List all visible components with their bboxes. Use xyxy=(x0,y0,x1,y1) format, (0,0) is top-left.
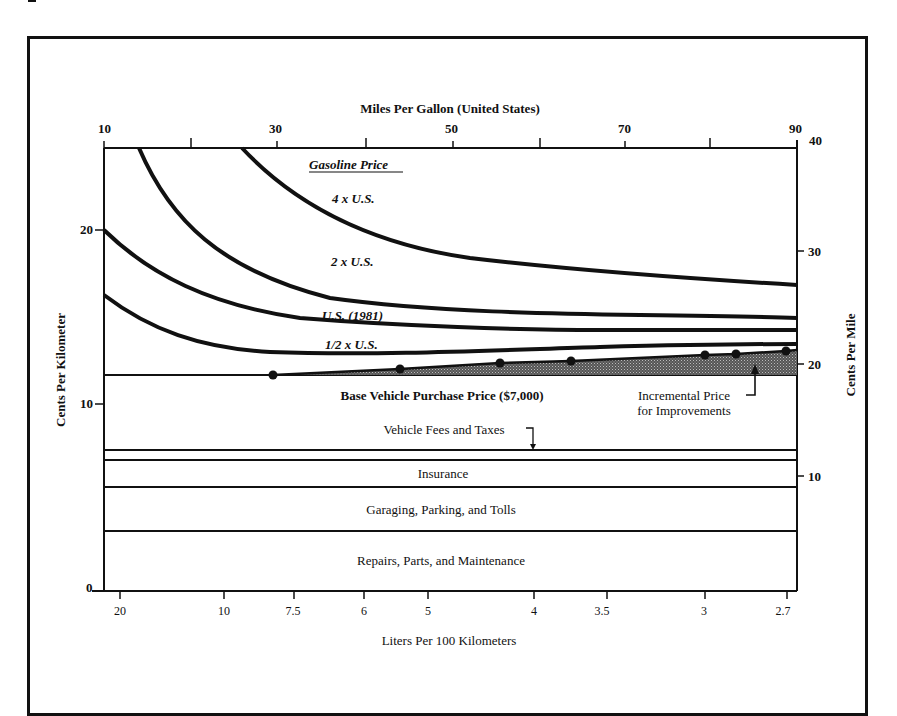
bottom-axis-title: Liters Per 100 Kilometers xyxy=(382,633,517,648)
curve-label-4x: 4 x U.S. xyxy=(331,191,375,206)
curve-half-us xyxy=(104,295,797,353)
data-point xyxy=(567,357,576,366)
bottom-axis-ticks xyxy=(120,591,787,599)
gasoline-price-curves xyxy=(104,148,797,353)
top-tick-label: 90 xyxy=(789,121,802,136)
left-axis-title: Cents Per Kilometer xyxy=(53,313,68,427)
data-point xyxy=(396,365,405,374)
bottom-tick-label: 2.7 xyxy=(776,604,791,618)
right-tick-label: 10 xyxy=(808,469,821,484)
left-tick-label: 10 xyxy=(80,396,93,411)
right-axis-ticks: 40 30 20 10 Cents Per Mile xyxy=(797,133,858,484)
right-axis-title: Cents Per Mile xyxy=(843,313,858,396)
label-fees-taxes: Vehicle Fees and Taxes xyxy=(383,422,504,437)
top-tick-label: 50 xyxy=(445,121,458,136)
top-axis-ticks xyxy=(104,138,797,148)
bottom-tick-label: 5 xyxy=(425,604,431,618)
top-tick-label: 30 xyxy=(269,121,282,136)
top-axis-title: Miles Per Gallon (United States) xyxy=(360,101,540,116)
curve-2x-us xyxy=(139,148,797,318)
label-insurance: Insurance xyxy=(418,466,469,481)
top-tick-label: 10 xyxy=(98,121,111,136)
right-tick-label: 20 xyxy=(808,357,821,372)
data-point xyxy=(496,359,505,368)
bottom-axis-labels: 20 10 7.5 6 5 4 3.5 3 2.7 Liters Per 100… xyxy=(114,604,791,648)
annotation-incremental-line1: Incremental Price xyxy=(638,388,730,403)
data-point xyxy=(732,350,741,359)
top-axis-labels: 10 30 50 70 90 Miles Per Gallon (United … xyxy=(98,101,802,136)
bottom-tick-label: 3 xyxy=(701,604,707,618)
band-labels: Base Vehicle Purchase Price ($7,000) Veh… xyxy=(340,388,543,568)
bottom-tick-label: 3.5 xyxy=(595,604,610,618)
bottom-tick-label: 4 xyxy=(531,604,537,618)
left-tick-label: 0 xyxy=(86,580,93,595)
data-point xyxy=(782,347,791,356)
bottom-tick-label: 6 xyxy=(361,604,367,618)
right-tick-label: 40 xyxy=(809,133,822,148)
right-tick-label: 30 xyxy=(808,244,821,259)
fees-arrow-icon xyxy=(526,428,533,446)
curve-label-half: 1/2 x U.S. xyxy=(325,337,378,352)
label-base-price: Base Vehicle Purchase Price ($7,000) xyxy=(340,388,543,403)
left-tick-label: 20 xyxy=(80,222,93,237)
top-tick-label: 70 xyxy=(618,121,631,136)
data-point xyxy=(701,351,710,360)
left-axis-ticks: 20 10 0 Cents Per Kilometer xyxy=(53,222,104,595)
bottom-tick-label: 20 xyxy=(114,604,126,618)
legend-heading: Gasoline Price xyxy=(309,157,388,172)
annotation-incremental-line2: for Improvements xyxy=(637,403,731,418)
curve-label-2x: 2 x U.S. xyxy=(330,254,374,269)
curve-label-us-1981: U.S. (1981) xyxy=(322,308,383,323)
bottom-tick-label: 10 xyxy=(218,604,230,618)
label-garaging: Garaging, Parking, and Tolls xyxy=(366,502,515,517)
data-point xyxy=(269,371,278,380)
label-repairs: Repairs, Parts, and Maintenance xyxy=(357,553,525,568)
bottom-tick-label: 7.5 xyxy=(286,604,301,618)
